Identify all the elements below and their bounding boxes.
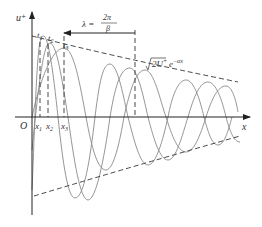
lower-envelope (34, 136, 240, 196)
envelope-formula: 2U+e−αx (146, 58, 183, 70)
svg-text:β: β (105, 24, 110, 33)
svg-text:λ =: λ = (81, 19, 94, 29)
y-axis-label: u⁺ (16, 12, 26, 23)
wavelength-formula: λ = 2π β (81, 13, 117, 33)
wave-diagram: u⁺ x O x1 x2 x3 t1 t2 t3 λ = 2π β 2U+e−α… (0, 0, 262, 227)
x1-label: x1 (34, 121, 42, 132)
t2-label: t2 (48, 33, 54, 44)
t1-label: t1 (37, 30, 43, 41)
t3-label: t3 (63, 40, 69, 51)
x3-label: x3 (60, 121, 68, 132)
x-axis-label: x (241, 121, 247, 132)
x2-label: x2 (45, 121, 53, 132)
origin-label: O (20, 120, 27, 131)
svg-text:2π: 2π (103, 13, 112, 22)
